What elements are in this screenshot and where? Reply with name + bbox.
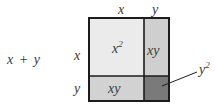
y-squared-exponent: 2	[205, 60, 210, 70]
x-squared-exponent: 2	[118, 39, 123, 49]
callout-label-y-squared: y2	[199, 63, 210, 77]
side-label-y: y	[74, 82, 80, 96]
expression-label: x + y	[7, 53, 40, 67]
region-label-x-squared: x2	[112, 42, 123, 56]
top-label-y: y	[152, 3, 158, 17]
top-label-x: x	[118, 3, 124, 17]
region-label-xy-bottom: xy	[108, 82, 120, 96]
region-y-squared	[144, 76, 169, 101]
side-label-x: x	[74, 49, 80, 63]
region-label-xy-right: xy	[147, 44, 159, 58]
